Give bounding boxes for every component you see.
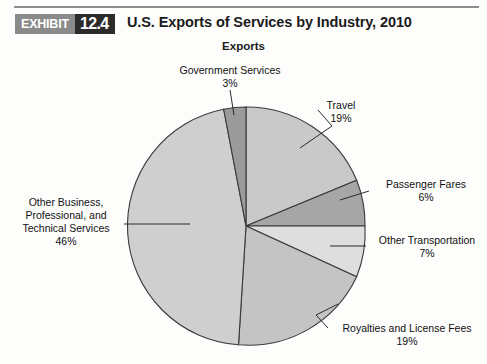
pie-label-other-business-line3: Technical Services	[8, 222, 124, 235]
exhibit-figure: EXHIBIT 12.4 U.S. Exports of Services by…	[0, 0, 487, 364]
pie-label-travel-text: Travel	[327, 99, 356, 111]
pie-label-royalties-and-license-fees-percent: 19%	[331, 335, 483, 348]
pie-label-travel: Travel 19%	[305, 99, 377, 125]
pie-label-passenger-fares: Passenger Fares 6%	[371, 178, 481, 204]
pie-label-other-transportation: Other Transportation 7%	[368, 234, 486, 260]
pie-label-government-services-percent: 3%	[150, 77, 310, 90]
pie-label-passenger-fares-percent: 6%	[371, 191, 481, 204]
pie-label-other-transportation-text: Other Transportation	[379, 234, 475, 246]
pie-label-government-services-text: Government Services	[180, 64, 281, 76]
pie-label-other-business-percent: 46%	[8, 235, 124, 248]
pie-label-royalties-and-license-fees-text: Royalties and License Fees	[343, 322, 472, 334]
pie-label-travel-percent: 19%	[305, 112, 377, 125]
pie-label-government-services: Government Services 3%	[150, 64, 310, 90]
pie-label-other-business-line2: Professional, and	[8, 209, 124, 222]
pie-label-royalties-and-license-fees: Royalties and License Fees 19%	[331, 322, 483, 348]
pie-label-passenger-fares-text: Passenger Fares	[386, 178, 466, 190]
pie-label-other-business-professional-technical-services: Other Business, Professional, and Techni…	[8, 196, 124, 248]
pie-label-other-transportation-percent: 7%	[368, 247, 486, 260]
pie-slice-other-business-professional-technical-services[interactable]	[127, 109, 246, 345]
pie-label-other-business-line1: Other Business,	[8, 196, 124, 209]
